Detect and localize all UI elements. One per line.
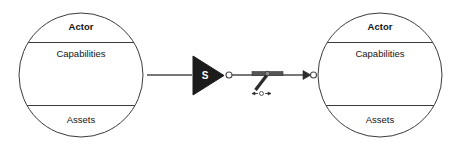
target-arrow-marker[interactable]: [303, 71, 317, 80]
node-actor-right[interactable]: Actor Capabilities Assets: [309, 13, 451, 137]
source-triangle-marker[interactable]: S: [193, 56, 224, 95]
connector[interactable]: S: [147, 56, 317, 96]
switch-pivot-icon: [265, 71, 270, 76]
actor-right-title: Actor: [368, 21, 393, 32]
switch-lever-icon: [256, 75, 268, 90]
actor-left-title: Actor: [69, 21, 94, 32]
filled-triangle-icon: [193, 56, 224, 95]
connector-label-s: S: [202, 70, 209, 81]
target-open-circle-icon: [311, 72, 317, 78]
switch-annotation-icon: [252, 92, 271, 96]
actor-right-capabilities-label: Capabilities: [355, 48, 404, 59]
diagram-canvas: Actor Capabilities Assets S: [0, 0, 456, 150]
switch-lever-marker[interactable]: [252, 71, 283, 95]
node-actor-left[interactable]: Actor Capabilities Assets: [10, 13, 152, 137]
actor-relationship-diagram: Actor Capabilities Assets S: [0, 0, 456, 150]
connector-open-circle-icon: [226, 72, 232, 78]
actor-right-assets-label: Assets: [366, 114, 395, 125]
actor-left-assets-label: Assets: [67, 114, 96, 125]
actor-left-capabilities-label: Capabilities: [56, 48, 105, 59]
arrow-head-icon: [303, 71, 311, 80]
